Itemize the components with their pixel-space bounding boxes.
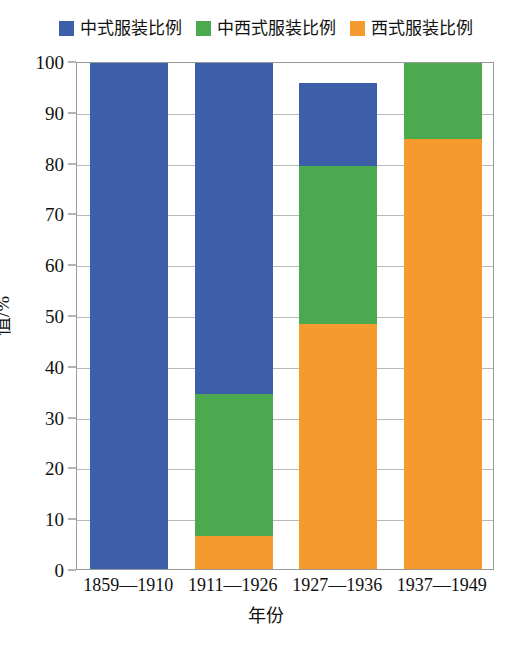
x-tick-label: 1911—1926 xyxy=(178,575,288,597)
bar-segment[interactable] xyxy=(90,62,168,569)
y-tick-label: 30 xyxy=(45,408,64,427)
bar-group[interactable] xyxy=(90,62,168,569)
bar-group[interactable] xyxy=(195,62,273,569)
y-tick-mark xyxy=(68,163,76,164)
x-tick-label: 1937—1949 xyxy=(387,575,497,597)
legend-label: 西式服装比例 xyxy=(371,20,473,37)
y-tick-mark xyxy=(68,62,76,63)
legend-swatch-icon xyxy=(196,21,211,36)
y-tick-label: 40 xyxy=(45,357,64,376)
y-tick-mark xyxy=(68,112,76,113)
stacked-bar-chart: 中式服装比例 中西式服装比例 西式服装比例 010203040506070809… xyxy=(0,0,532,649)
y-tick-mark xyxy=(68,468,76,469)
legend-entry-western-style[interactable]: 西式服装比例 xyxy=(350,20,473,37)
bar-segment[interactable] xyxy=(299,83,377,166)
y-tick-mark xyxy=(68,265,76,266)
y-tick-label: 90 xyxy=(45,103,64,122)
bar-segment[interactable] xyxy=(195,62,273,394)
bar-segment[interactable] xyxy=(195,536,273,569)
y-tick-mark xyxy=(68,214,76,215)
bar-segment[interactable] xyxy=(404,139,482,569)
legend-swatch-icon xyxy=(59,21,74,36)
bar-group[interactable] xyxy=(299,62,377,569)
y-tick-label: 50 xyxy=(45,307,64,326)
y-tick-label: 60 xyxy=(45,256,64,275)
x-tick-label: 1927—1936 xyxy=(282,575,392,597)
x-tick-label: 1859—1910 xyxy=(73,575,183,597)
bar-segment[interactable] xyxy=(299,324,377,569)
legend-label: 中西式服装比例 xyxy=(217,20,336,37)
y-tick-mark xyxy=(68,417,76,418)
y-tick-label: 80 xyxy=(45,154,64,173)
plot-area xyxy=(76,62,494,570)
legend-swatch-icon xyxy=(350,21,365,36)
x-axis-title: 年份 xyxy=(0,606,532,628)
y-tick-mark xyxy=(68,570,76,571)
y-axis-title: 值/% xyxy=(0,296,12,336)
y-tick-label: 70 xyxy=(45,205,64,224)
y-tick-label: 100 xyxy=(36,53,65,72)
y-tick-label: 0 xyxy=(55,561,65,580)
bar-group[interactable] xyxy=(404,62,482,569)
y-tick-label: 20 xyxy=(45,459,64,478)
bar-segment[interactable] xyxy=(299,166,377,324)
bar-segment[interactable] xyxy=(195,394,273,536)
y-tick-mark xyxy=(68,519,76,520)
legend-entry-mixed-style[interactable]: 中西式服装比例 xyxy=(196,20,336,37)
chart-legend: 中式服装比例 中西式服装比例 西式服装比例 xyxy=(0,8,532,48)
y-tick-mark xyxy=(68,366,76,367)
y-tick-label: 10 xyxy=(45,510,64,529)
x-axis: 1859—19101911—19261927—19361937—1949 xyxy=(76,575,494,605)
legend-label: 中式服装比例 xyxy=(80,20,182,37)
y-tick-mark xyxy=(68,316,76,317)
bar-segment[interactable] xyxy=(404,62,482,139)
legend-entry-chinese-style[interactable]: 中式服装比例 xyxy=(59,20,182,37)
